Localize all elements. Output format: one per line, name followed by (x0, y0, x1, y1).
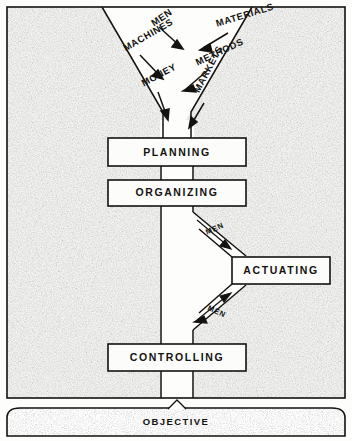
diagram-svg (0, 0, 352, 441)
objective-bar (7, 400, 345, 436)
box-actuating (232, 257, 330, 284)
diagram-canvas: MEN MATERIALS MACHINES METHODS MONEY MAR… (0, 0, 352, 441)
box-controlling (108, 344, 246, 371)
box-planning (108, 138, 246, 166)
box-organizing (108, 180, 246, 206)
